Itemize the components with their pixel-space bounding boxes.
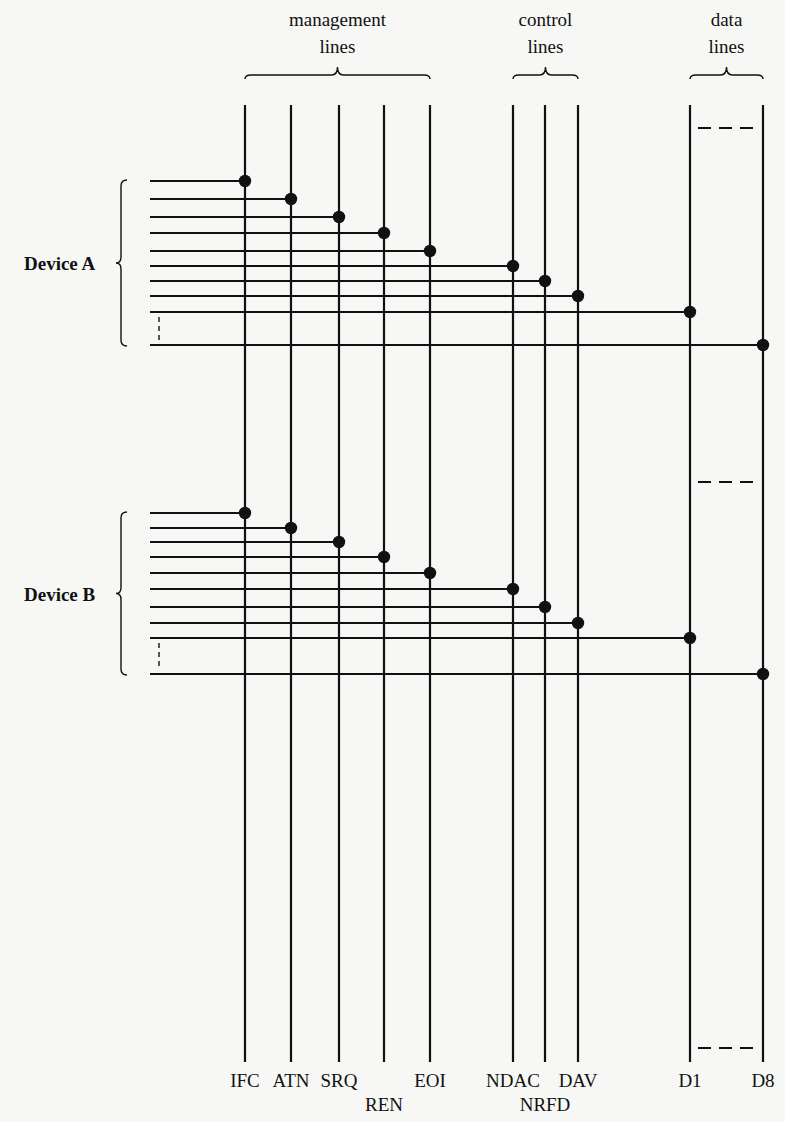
device-brace [116,180,127,346]
device-a: Device A [24,175,769,351]
junction-dot-ifc [239,507,251,519]
device-b: Device B [24,507,769,680]
junction-dot-d8 [757,339,769,351]
bus-lines [245,105,763,1062]
junction-dot-dav [572,617,584,629]
bus-label-srq: SRQ [321,1070,358,1091]
group-label-data: data [711,9,743,30]
junction-dot-atn [285,193,297,205]
bus-label-eoi: EOI [414,1070,446,1091]
junction-dot-d8 [757,668,769,680]
bus-label-d8: D8 [751,1070,774,1091]
junction-dot-d1 [684,632,696,644]
junction-dot-dav [572,290,584,302]
group-label-control-lines: lines [528,36,564,57]
devices: Device ADevice B [24,175,769,680]
junction-dot-srq [333,211,345,223]
bus-label-ren: REN [365,1094,403,1115]
device-label: Device A [24,253,96,274]
junction-dot-ndac [507,583,519,595]
gpib-bus-diagram: managementlinescontrollinesdatalines Dev… [0,0,785,1122]
junction-dot-eoi [424,567,436,579]
bus-label-ifc: IFC [230,1070,260,1091]
group-label-management: management [289,9,387,30]
bus-label-dav: DAV [559,1070,598,1091]
junction-dot-eoi [424,245,436,257]
bus-label-nrfd: NRFD [520,1094,571,1115]
device-label: Device B [24,584,96,605]
junction-dot-ifc [239,175,251,187]
brace-control [513,67,578,79]
junction-dot-nrfd [539,275,551,287]
junction-dot-d1 [684,306,696,318]
bus-label-ndac: NDAC [486,1070,540,1091]
group-labels: managementlinescontrollinesdatalines [245,9,763,79]
junction-dot-ren [378,551,390,563]
group-label-control: control [519,9,573,30]
junction-dot-srq [333,536,345,548]
bus-line-labels: IFCATNSRQRENEOINDACNRFDDAVD1D8 [230,1070,774,1115]
group-label-management-lines: lines [320,36,356,57]
bus-label-d1: D1 [678,1070,701,1091]
bus-label-atn: ATN [273,1070,310,1091]
junction-dot-ren [378,227,390,239]
group-label-data-lines: lines [709,36,745,57]
device-brace [116,512,127,675]
junction-dot-atn [285,522,297,534]
brace-management [245,67,430,79]
brace-data [690,67,763,79]
junction-dot-ndac [507,260,519,272]
junction-dot-nrfd [539,601,551,613]
